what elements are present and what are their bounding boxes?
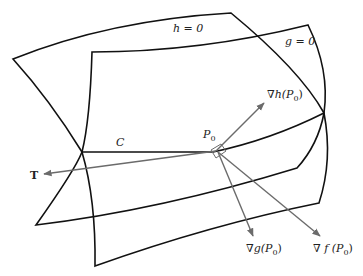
label-grad-h-suffix: )	[299, 88, 303, 101]
label-c-text: C	[116, 136, 124, 149]
label-p0-sub: 0	[210, 134, 215, 143]
label-t-text: T	[30, 169, 38, 182]
label-g-surface: g = 0	[285, 36, 315, 47]
surface-h	[13, 13, 328, 266]
label-p0: P0	[203, 129, 216, 143]
label-grad-f-suffix: )	[349, 242, 353, 255]
label-g-text: g = 0	[285, 35, 315, 48]
label-grad-f: ∇ f (P0)	[313, 243, 353, 257]
vector-grad-g	[218, 152, 253, 236]
label-h-surface: h = 0	[173, 23, 203, 34]
label-grad-g-prefix: ∇g(P	[246, 242, 272, 255]
label-grad-g: ∇g(P0)	[246, 243, 282, 257]
vector-grad-h	[216, 103, 264, 151]
surface-g	[36, 25, 325, 225]
label-h-text: h = 0	[173, 22, 203, 35]
label-grad-h-prefix: ∇h(P	[267, 88, 293, 101]
label-grad-g-suffix: )	[278, 242, 282, 255]
label-grad-h: ∇h(P0)	[267, 89, 303, 103]
label-t-vector: T	[30, 170, 38, 181]
label-curve-c: C	[116, 137, 124, 148]
vector-t	[44, 151, 216, 174]
label-grad-f-prefix: ∇ f (P	[313, 242, 343, 255]
